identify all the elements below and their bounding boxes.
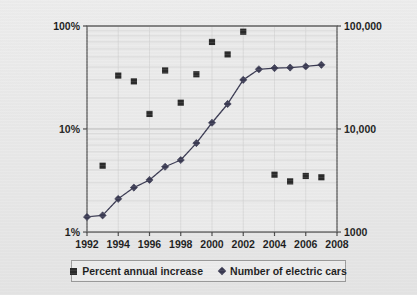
data-point-percent-increase-2005 xyxy=(287,178,293,184)
x-axis-labels: 199219941996199820002002200420062008 xyxy=(75,238,349,250)
x-tick-2008: 2008 xyxy=(325,238,349,250)
x-tick-1992: 1992 xyxy=(75,238,99,250)
legend-item-number-of-electric-cars: Number of electric cars xyxy=(219,265,347,277)
x-tick-1998: 1998 xyxy=(169,238,193,250)
chart-figure: 1%10%100% 100010,000100,000 199219941996… xyxy=(0,0,417,295)
data-point-percent-increase-2000 xyxy=(209,39,215,45)
data-point-percent-increase-1993 xyxy=(100,163,106,169)
x-tick-1996: 1996 xyxy=(138,238,162,250)
x-tick-1994: 1994 xyxy=(107,238,131,250)
data-point-percent-increase-1996 xyxy=(146,111,152,117)
y-left-tick-1: 10% xyxy=(59,123,81,135)
y-axis-right-labels: 100010,000100,000 xyxy=(344,20,382,238)
data-point-percent-increase-2001 xyxy=(225,51,231,57)
x-tick-2000: 2000 xyxy=(200,238,224,250)
data-point-percent-increase-2004 xyxy=(271,172,277,178)
data-point-percent-increase-2002 xyxy=(240,29,246,35)
data-point-percent-increase-1998 xyxy=(178,100,184,106)
legend-diamond-marker-icon xyxy=(218,267,226,275)
legend-label-percent-annual-increase: Percent annual increase xyxy=(82,265,203,277)
chart-canvas: 1%10%100% 100010,000100,000 199219941996… xyxy=(0,0,417,295)
legend-square-marker-icon xyxy=(70,268,77,275)
y-axis-left-labels: 1%10%100% xyxy=(53,20,81,238)
data-point-percent-increase-1997 xyxy=(162,67,168,73)
chart-legend: Percent annual increase Number of electr… xyxy=(71,260,346,282)
data-point-percent-increase-1994 xyxy=(115,72,121,78)
y-left-tick-2: 100% xyxy=(53,20,81,32)
x-tick-2006: 2006 xyxy=(294,238,318,250)
data-point-percent-increase-2007 xyxy=(318,174,324,180)
y-right-tick-0: 1000 xyxy=(344,226,368,238)
legend-label-number-of-electric-cars: Number of electric cars xyxy=(230,265,347,277)
x-tick-2002: 2002 xyxy=(232,238,256,250)
data-point-percent-increase-2006 xyxy=(303,173,309,179)
x-tick-2004: 2004 xyxy=(263,238,287,250)
legend-item-percent-annual-increase: Percent annual increase xyxy=(70,265,203,277)
data-point-percent-increase-1999 xyxy=(193,71,199,77)
y-right-tick-2: 100,000 xyxy=(344,20,382,32)
y-left-tick-0: 1% xyxy=(65,226,81,238)
data-point-percent-increase-1995 xyxy=(131,78,137,84)
y-right-tick-1: 10,000 xyxy=(344,123,376,135)
gridlines-group xyxy=(87,26,337,232)
